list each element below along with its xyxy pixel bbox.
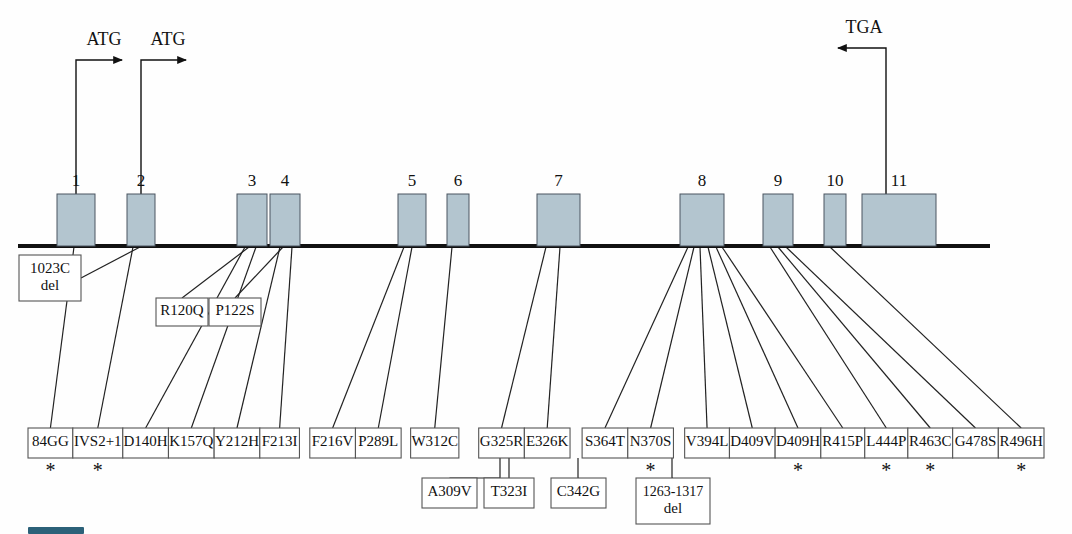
exon-box-3 <box>237 194 267 246</box>
connector-y212h <box>237 247 280 428</box>
connector-r415p <box>722 247 843 428</box>
connector-1023cdel <box>81 247 140 278</box>
mutation-asterisk-r463c: * <box>925 459 935 481</box>
connector-f216v <box>333 247 404 428</box>
mutation-label-d409v: D409V <box>730 433 774 449</box>
exon-box-1 <box>57 194 95 246</box>
mutation-label-r415p: R415P <box>822 433 863 449</box>
connector-k157q <box>191 247 256 428</box>
exon-number-label-2: 2 <box>137 171 146 190</box>
connector-ivs21 <box>98 247 133 428</box>
exon-box-6 <box>447 194 469 246</box>
mutation-asterisk-d409h: * <box>793 459 803 481</box>
exon-box-2 <box>127 194 155 246</box>
figure-caption-strip <box>0 512 1072 534</box>
mutation-label-f213i: F213I <box>262 433 298 449</box>
gene-mutation-figure: ATGATGTGA 1234567891011 84GG*IVS2+1*D140… <box>0 0 1072 534</box>
tga-stop-codon-label: TGA <box>846 17 883 37</box>
mutation-label-p289l: P289L <box>358 433 398 449</box>
mutation-label-84gg: 84GG <box>32 433 69 449</box>
mutation-label-d409h: D409H <box>776 433 820 449</box>
connector-w312c <box>435 247 452 428</box>
mutation-label-c342g: C342G <box>557 483 601 499</box>
exon-box-11 <box>862 194 936 246</box>
mutation-label-r496h: R496H <box>999 433 1043 449</box>
mutation-label-r463c: R463C <box>909 433 952 449</box>
exon-number-label-5: 5 <box>408 171 417 190</box>
connector-s364t <box>605 247 688 428</box>
exon-box-9 <box>763 194 793 246</box>
connector-g325r <box>502 247 546 428</box>
exon-box-7 <box>537 194 580 246</box>
mutation-label-1023cdel: del <box>41 277 59 293</box>
exon-number-label-4: 4 <box>281 171 290 190</box>
mutation-label-w312c: W312C <box>411 433 458 449</box>
mutation-label-d140h: D140H <box>124 433 168 449</box>
exon-box-10 <box>824 194 846 246</box>
connector-p122s <box>235 247 283 298</box>
tga-stop-codon-arrow <box>838 48 886 194</box>
atg-start-codon-1-arrow <box>76 60 122 194</box>
mutation-label-e326k: E326K <box>526 433 569 449</box>
exon-number-label-10: 10 <box>827 171 844 190</box>
exon-number-label-8: 8 <box>698 171 707 190</box>
connector-d409v <box>708 247 752 428</box>
exon-number-label-6: 6 <box>454 171 463 190</box>
caption-color-swatch <box>28 527 84 534</box>
connector-e326k <box>547 247 560 428</box>
exon-box-4 <box>270 194 300 246</box>
connector-r496h <box>830 247 1021 428</box>
mutation-label-t323i: T323I <box>491 483 528 499</box>
connector-p289l <box>378 247 412 428</box>
atg-start-codon-2-label: ATG <box>151 29 186 49</box>
mutation-label-a309v: A309V <box>427 483 471 499</box>
mutation-label-p122s: P122S <box>215 302 254 318</box>
mutation-asterisk-l444p: * <box>881 459 891 481</box>
codon-markers-group: ATGATGTGA <box>76 17 886 194</box>
gene-diagram-svg: ATGATGTGA 1234567891011 84GG*IVS2+1*D140… <box>0 0 1072 534</box>
exons-group: 1234567891011 <box>57 171 936 246</box>
exon-number-label-3: 3 <box>248 171 257 190</box>
mutation-label-f216v: F216V <box>312 433 354 449</box>
mutation-label-g325r: G325R <box>480 433 523 449</box>
mutation-label-1023cdel: 1023C <box>30 260 70 276</box>
connector-v394l <box>700 247 707 428</box>
atg-start-codon-2-arrow <box>141 60 186 194</box>
mutation-asterisk-84gg: * <box>45 459 55 481</box>
connector-g478s <box>786 247 975 428</box>
mutation-label-ivs21: IVS2+1 <box>74 433 122 449</box>
exon-number-label-9: 9 <box>774 171 783 190</box>
atg-start-codon-1-label: ATG <box>87 29 122 49</box>
connector-r120q <box>182 247 249 298</box>
exon-number-label-7: 7 <box>554 171 563 190</box>
exon-box-5 <box>398 194 426 246</box>
mutation-label-s364t: S364T <box>585 433 625 449</box>
mutation-label-y212h: Y212H <box>215 433 259 449</box>
connector-r463c <box>778 247 930 428</box>
exon-box-8 <box>680 194 724 246</box>
connector-d409h <box>716 247 798 428</box>
connector-n370s <box>651 247 694 428</box>
mutation-label-l444p: L444P <box>866 433 906 449</box>
mutation-label-r120q: R120Q <box>160 302 204 318</box>
connector-d140h <box>146 247 245 428</box>
mutation-asterisk-r496h: * <box>1016 459 1026 481</box>
mutation-label-g478s: G478S <box>955 433 997 449</box>
mutation-asterisk-ivs21: * <box>93 459 103 481</box>
exon-number-label-1: 1 <box>72 171 81 190</box>
connector-f213i <box>280 247 292 428</box>
mutation-label-v394l: V394L <box>686 433 729 449</box>
mutation-label-k157q: K157Q <box>169 433 213 449</box>
mutation-label-n370s: N370S <box>630 433 672 449</box>
mutation-boxes-group: 84GG*IVS2+1*D140HK157QY212HF213IF216VP28… <box>19 255 1044 524</box>
exon-number-label-11: 11 <box>891 171 907 190</box>
mutation-label-12631317del: 1263-1317 <box>643 484 704 499</box>
connector-l444p <box>770 247 886 428</box>
